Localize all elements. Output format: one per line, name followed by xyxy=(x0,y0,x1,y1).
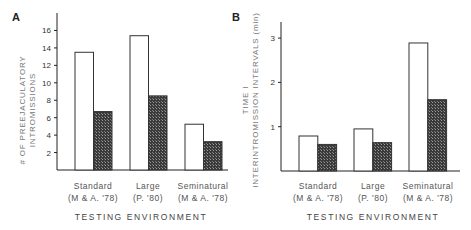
bar-hatched xyxy=(428,100,447,171)
category-sublabel: (M & A. '78) xyxy=(293,193,343,203)
category-label: Standard xyxy=(299,181,338,191)
y-tick-label: 12 xyxy=(42,61,51,70)
category-sublabel: (M & A. '78) xyxy=(68,193,118,203)
category-sublabel: (M & A. '78) xyxy=(178,193,228,203)
y-axis-label: TIME I xyxy=(241,86,250,114)
panel-label: A xyxy=(12,11,20,23)
category-sublabel: (M & A. '78) xyxy=(403,193,453,203)
bar-hatched xyxy=(373,143,392,171)
bar-hatched xyxy=(204,142,223,170)
category-label: Seminatural xyxy=(403,181,454,191)
y-tick-label: 1 xyxy=(271,123,276,132)
panel-label: B xyxy=(232,11,240,23)
y-tick-label: 3 xyxy=(271,34,276,43)
y-tick-label: 4 xyxy=(47,131,52,140)
bar-open xyxy=(354,129,373,171)
category-label: Large xyxy=(361,181,385,191)
x-axis-label: TESTING ENVIRONMENT xyxy=(307,212,439,222)
y-axis-label: # OF PREEJACULATORY xyxy=(18,55,27,164)
bar-open xyxy=(299,136,318,171)
bar-open xyxy=(75,52,94,170)
category-label: Standard xyxy=(74,181,113,191)
bar-hatched xyxy=(318,144,337,171)
category-sublabel: (P. '80) xyxy=(133,193,163,203)
y-tick-label: 8 xyxy=(47,96,52,105)
category-label: Large xyxy=(136,181,160,191)
x-axis-label: TESTING ENVIRONMENT xyxy=(75,212,207,222)
bar-hatched xyxy=(94,112,113,170)
panel-a: A246810121416Standard(M & A. '78)Large(P… xyxy=(12,11,228,222)
y-tick-label: 14 xyxy=(42,44,51,53)
category-label: Seminatural xyxy=(178,181,229,191)
bar-open xyxy=(409,43,428,171)
y-tick-label: 10 xyxy=(42,79,51,88)
y-tick-label: 2 xyxy=(271,78,276,87)
y-axis-label: INTROMISSIONS xyxy=(28,73,37,147)
category-sublabel: (P. '80) xyxy=(358,193,388,203)
figure: A246810121416Standard(M & A. '78)Large(P… xyxy=(0,0,471,230)
y-tick-label: 6 xyxy=(47,114,52,123)
bar-hatched xyxy=(149,96,168,170)
panel-b: B123Standard(M & A. '78)Large(P. '80)Sem… xyxy=(232,11,460,222)
y-tick-label: 2 xyxy=(47,149,52,158)
y-axis-label: INTERINTROMISSION INTERVALS (min) xyxy=(251,12,260,187)
y-tick-label: 16 xyxy=(42,26,51,35)
bar-open xyxy=(185,124,204,170)
bar-open xyxy=(130,36,149,170)
